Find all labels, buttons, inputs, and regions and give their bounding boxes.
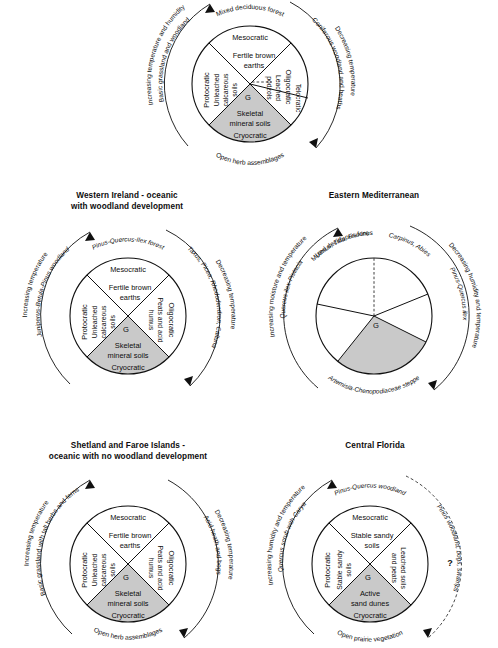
label-oligocratic: Oligocratic — [167, 551, 176, 586]
label-mesocratic-soil-1: Stable sandy — [351, 531, 394, 540]
title-line-1: Western Ireland - oceanic — [6, 190, 248, 201]
arrow-head-right — [179, 628, 188, 638]
panel-title-eastern-mediterranean: Eastern Mediterranean — [252, 190, 496, 201]
panel-shetland-faroe: Shetland and Faroe Islands - oceanic wit… — [6, 440, 250, 648]
diagram-central-florida: Mesocratic Stable sandy soils Protocrati… — [252, 440, 498, 648]
arc-left-inner-label: Basic grassland with tall herbs and fern… — [34, 485, 80, 597]
panel-central-florida: Central Florida Mesocratic Stable sandy … — [252, 440, 498, 648]
panel-generic-model: Mesocratic Fertile brown earths Protocra… — [100, 0, 400, 175]
label-oligocratic: Oligocratic — [167, 303, 176, 338]
arc-right-inner-label: Pinus-Quercus ilex — [449, 266, 469, 321]
figure-page: Mesocratic Fertile brown earths Protocra… — [0, 0, 498, 648]
label-protocratic-soil-1: Unleached — [91, 306, 98, 339]
title-line-2: with woodland development — [6, 201, 248, 212]
label-cryocratic-soil-2: mineral soils — [107, 599, 148, 608]
label-oligocratic-soil-2: humus — [148, 558, 155, 579]
label-telocratic: Telocratic — [295, 84, 302, 113]
title-line-2: oceanic with no woodland development — [6, 451, 250, 462]
label-cryocratic: Cryocratic — [111, 363, 145, 372]
label-protocratic: Protocratic — [202, 72, 211, 108]
label-mesocratic-soil-2: earths — [120, 293, 141, 302]
label-protocratic-soil-2: soils — [345, 563, 352, 577]
title-line-1: Central Florida — [252, 440, 498, 451]
label-cryocratic: Cryocratic — [233, 131, 267, 140]
label-cryocratic-soil-1: Skeletal — [237, 109, 264, 118]
label-cryocratic: Cryocratic — [353, 611, 387, 620]
arc-top-label: Pinus-Quercus-Ilex forest — [91, 235, 166, 250]
arc-path-right-inner — [406, 484, 458, 624]
label-mesocratic-soil-1: Fertile brown — [233, 51, 276, 60]
panel-western-ireland: Western Ireland - oceanic with woodland … — [6, 188, 248, 400]
label-cryocratic-soil-2: sand dunes — [351, 599, 390, 608]
arrow-head-right — [309, 138, 318, 148]
label-centre-g: G — [123, 573, 129, 582]
label-protocratic-soil-3: soils — [231, 83, 238, 97]
arrow-head-left — [205, 4, 215, 13]
dashed-arrow-arc-right — [406, 476, 461, 638]
label-cryocratic-soil-1: Active — [360, 589, 380, 598]
panel-title-central-florida: Central Florida — [252, 440, 498, 451]
arc-bottom-label: Open herb assemblages — [93, 626, 164, 641]
label-oligocratic-soil-1: Leached — [275, 75, 282, 101]
label-oligocratic: Oligocratic — [284, 70, 293, 105]
label-centre-g: G — [365, 573, 371, 582]
label-oligocratic-soil-1: Peats and acid — [157, 546, 164, 591]
label-protocratic-soil-3: soils — [109, 563, 116, 577]
spoke-east — [374, 294, 428, 316]
label-oligocratic-soil-2: and peats — [390, 553, 398, 583]
label-cryocratic-soil-1: Skeletal — [115, 589, 142, 598]
arc-top-label: Mixed deciduous forest — [215, 3, 286, 18]
label-protocratic-soil-1: Unleached — [91, 554, 98, 587]
label-protocratic-soil-1: Unleached — [213, 74, 220, 107]
arc-top-left-taxa-label: Ulmus, Tilia, Fraxinus — [313, 229, 373, 259]
label-oligocratic-soil-1: Peats and acid — [157, 298, 164, 343]
panel-eastern-mediterranean: Eastern Mediterranean G — [252, 188, 496, 400]
arc-top-label: Pinus-Quercus woodland — [333, 482, 408, 497]
diagram-western-ireland: Mesocratic Fertile brown earths Protocra… — [6, 188, 248, 400]
label-cryocratic: Cryocratic — [111, 611, 145, 620]
arc-left-inner-label: Quercus ilex-Pistacia — [279, 258, 304, 318]
arc-bottom-label: Artemisia-Chenopodiaceae steppe — [327, 373, 421, 395]
label-protocratic: Protocratic — [80, 304, 89, 340]
label-centre-g: G — [245, 93, 251, 102]
label-mesocratic: Mesocratic — [232, 33, 268, 42]
arc-bottom-label: Open herb assemblages — [215, 151, 286, 166]
label-mesocratic: Mesocratic — [110, 513, 146, 522]
arrow-head-left — [327, 480, 337, 489]
label-mesocratic: Mesocratic — [352, 513, 388, 522]
spoke-west — [317, 304, 374, 316]
label-protocratic-soil-3: soils — [109, 315, 116, 329]
label-oligocratic-soil-2: humus — [148, 310, 155, 331]
label-protocratic: Protocratic — [80, 552, 89, 588]
arc-path-left-inner — [40, 232, 102, 370]
label-protocratic: Protocratic — [323, 552, 332, 588]
diagram-eastern-mediterranean: G Mixed deciduous forest Ulmus, Tilia, F… — [252, 188, 496, 400]
label-mesocratic-soil-1: Fertile brown — [109, 283, 152, 292]
label-protocratic-soil-2: calcareous — [100, 305, 107, 338]
label-cryocratic-soil-2: mineral soils — [107, 351, 148, 360]
label-mesocratic-soil-2: earths — [120, 541, 141, 550]
label-oligocratic-soil-2: podzols — [265, 76, 273, 100]
label-protocratic-soil-1: Stable sandy — [336, 550, 344, 590]
label-mesocratic-soil-1: Fertile brown — [109, 531, 152, 540]
arrow-head-left — [85, 480, 95, 489]
arc-bottom-label: Open prairie vegetation — [336, 628, 404, 642]
label-centre-g: G — [373, 321, 379, 330]
arrow-head-right — [423, 628, 432, 638]
arc-right-inner-label: Pinus woodland, bogs, swamps — [436, 503, 464, 594]
label-mesocratic-soil-2: soils — [365, 541, 380, 550]
label-centre-g: G — [123, 325, 129, 334]
diagram-shetland-faroe: Mesocratic Fertile brown earths Protocra… — [6, 440, 250, 648]
panel-title-western-ireland: Western Ireland - oceanic with woodland … — [6, 190, 248, 212]
uncertainty-marker: ? — [447, 558, 453, 568]
label-cryocratic-soil-1: Skeletal — [115, 341, 142, 350]
title-line-1: Eastern Mediterranean — [252, 190, 496, 201]
panel-title-shetland-faroe: Shetland and Faroe Islands - oceanic wit… — [6, 440, 250, 462]
label-mesocratic-soil-2: earths — [244, 61, 265, 70]
label-protocratic-soil-2: calcareous — [222, 73, 229, 106]
arc-path-top — [175, 9, 325, 84]
diagram-generic-model: Mesocratic Fertile brown earths Protocra… — [100, 0, 400, 175]
label-oligocratic-soil-1: Leached soils — [400, 547, 407, 589]
label-mesocratic: Mesocratic — [110, 265, 146, 274]
label-cryocratic-soil-2: mineral soils — [229, 119, 270, 128]
